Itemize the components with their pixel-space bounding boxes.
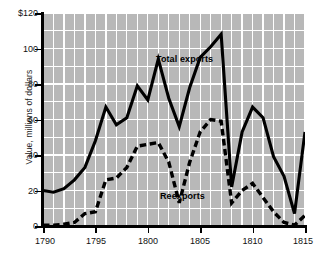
y-tick-label: 60 (4, 115, 38, 125)
chart-figure: Value, millions of dollars $120 100 80 6… (0, 0, 319, 256)
x-tick-label: 1795 (86, 236, 106, 246)
x-tick-label: 1800 (138, 236, 158, 246)
y-tick-label: $120 (4, 8, 38, 18)
x-axis-spine (41, 225, 307, 228)
annotation-reexports: Reexports (160, 191, 205, 201)
y-axis-spine (41, 12, 44, 227)
y-tick-label: 0 (4, 221, 38, 231)
y-tick-label: 20 (4, 186, 38, 196)
x-tick-label: 1810 (242, 236, 262, 246)
x-tick-label: 1805 (190, 236, 210, 246)
annotation-total-exports: Total exports (156, 54, 213, 64)
y-tick-label: 80 (4, 79, 38, 89)
plot-area: Total exports Reexports (43, 13, 305, 226)
x-tick-label: 1790 (35, 236, 55, 246)
x-axis-tick-labels: 1790 1795 1800 1805 1810 1815 (0, 232, 319, 246)
y-axis-tick-labels: $120 100 80 60 40 20 0 (0, 0, 38, 256)
y-tick-label: 40 (4, 150, 38, 160)
x-tick-label: 1815 (293, 236, 313, 246)
y-tick-label: 100 (4, 44, 38, 54)
